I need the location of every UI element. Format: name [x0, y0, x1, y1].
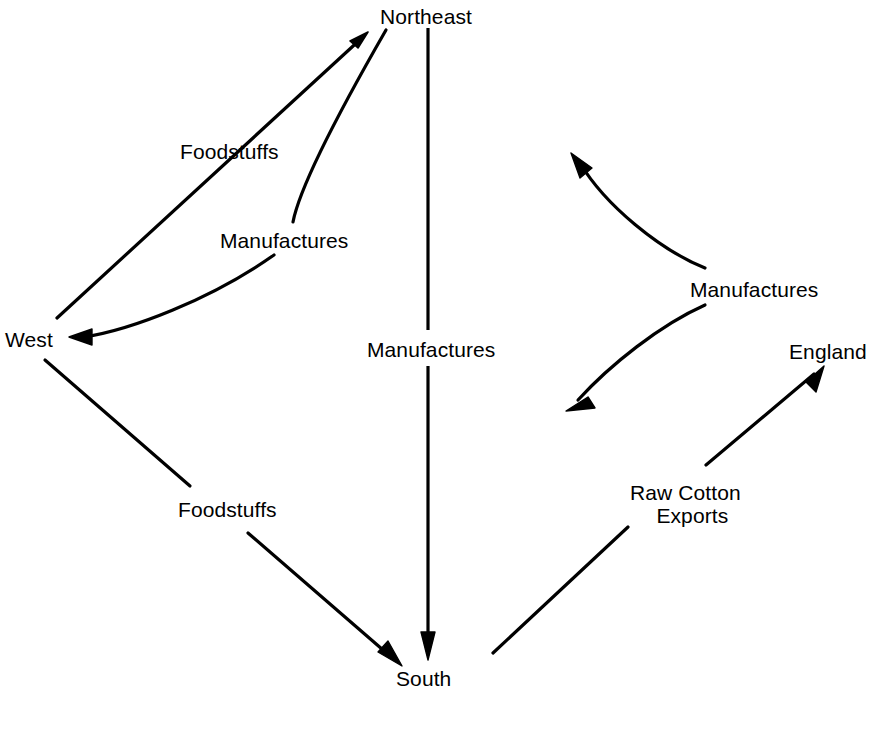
flow-label-west-to-northeast: Foodstuffs [180, 140, 279, 163]
node-label-northeast: Northeast [380, 5, 472, 28]
node-label-west: West [5, 328, 53, 351]
flow-label-manufactures-right: Manufactures [690, 278, 818, 301]
flow-label-raw-cotton-exports: Raw Cotton Exports [630, 481, 741, 527]
arrow-northeast-to-west [69, 30, 386, 345]
diagram-canvas: Northeast West South England Foodstuffs … [0, 0, 877, 745]
arrow-west-to-northeast [57, 32, 368, 318]
arrow-south-to-upper-right [571, 153, 705, 268]
node-label-england: England [789, 340, 867, 363]
raw-cotton-line-2: Exports [644, 504, 741, 527]
arrow-upper-to-south [566, 305, 705, 411]
raw-cotton-line-1: Raw Cotton [630, 481, 741, 504]
flow-label-northeast-to-west: Manufactures [220, 229, 348, 252]
flow-label-west-to-south: Foodstuffs [178, 498, 277, 521]
node-label-south: South [396, 667, 451, 690]
flow-arrows-layer [0, 0, 877, 745]
flow-label-northeast-to-south: Manufactures [367, 338, 495, 361]
